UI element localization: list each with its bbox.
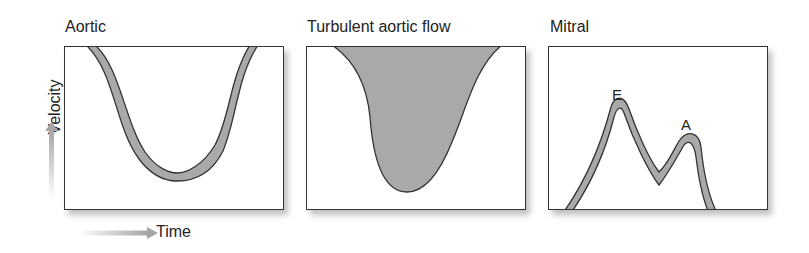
aortic-waveform bbox=[65, 47, 284, 210]
velocity-arrow-icon bbox=[44, 122, 58, 198]
panel-title-turbulent: Turbulent aortic flow bbox=[307, 18, 450, 36]
time-axis-label: Time bbox=[156, 223, 191, 241]
peak-label-a: A bbox=[681, 116, 691, 133]
panel-aortic bbox=[64, 46, 284, 210]
turbulent-waveform bbox=[307, 47, 526, 210]
panel-mitral bbox=[548, 46, 768, 210]
mitral-waveform bbox=[549, 47, 768, 210]
peak-label-e: E bbox=[612, 86, 622, 103]
time-arrow-icon bbox=[78, 227, 158, 239]
panel-title-mitral: Mitral bbox=[550, 18, 589, 36]
panel-title-aortic: Aortic bbox=[65, 18, 106, 36]
panel-turbulent-aortic-flow bbox=[306, 46, 526, 210]
